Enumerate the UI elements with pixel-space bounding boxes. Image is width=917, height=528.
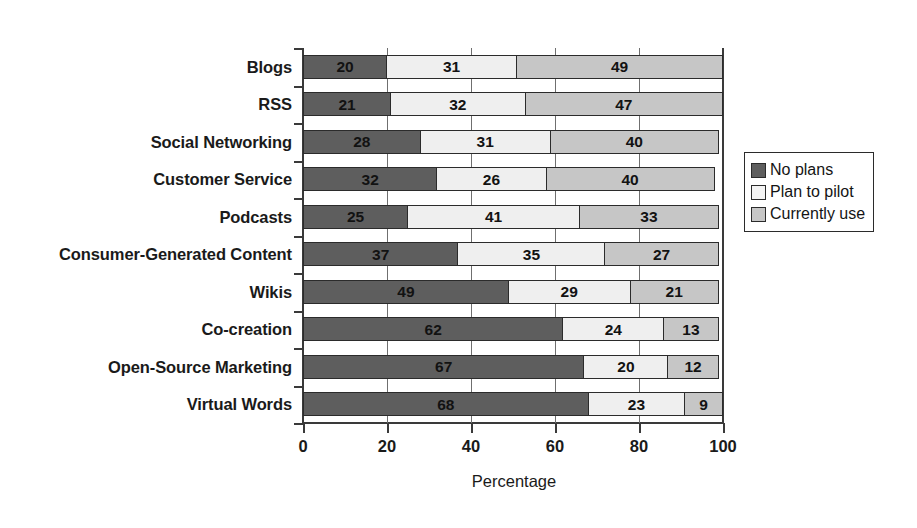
bar-row: 672012 [303, 355, 723, 379]
category-label: Wikis [0, 283, 292, 301]
category-label: Co-creation [0, 320, 292, 338]
x-axis-tick-label: 60 [546, 437, 564, 456]
bar-value-label: 21 [338, 97, 355, 113]
bar-value-label: 26 [483, 172, 500, 188]
bar-value-label: 67 [435, 359, 452, 375]
y-axis-tick [294, 86, 303, 88]
bar-segment: 67 [303, 355, 584, 379]
y-axis-tick [294, 161, 303, 163]
legend-item: Currently use [751, 203, 865, 225]
legend-label: Plan to pilot [770, 184, 854, 200]
bar-value-label: 62 [425, 322, 442, 338]
bar-value-label: 13 [682, 322, 699, 338]
bar-value-label: 31 [443, 59, 460, 75]
x-axis-tick [555, 423, 557, 433]
bar-value-label: 32 [449, 97, 466, 113]
bar-segment: 62 [303, 317, 563, 341]
y-axis-tick [294, 48, 303, 50]
y-axis-tick [294, 198, 303, 200]
x-axis-tick-label: 40 [462, 437, 480, 456]
category-label: Podcasts [0, 208, 292, 226]
x-axis-tick-label: 100 [709, 437, 737, 456]
x-axis-tick-label: 80 [630, 437, 648, 456]
y-axis-tick [294, 311, 303, 313]
bar-segment: 32 [391, 92, 525, 116]
bar-segment: 37 [303, 242, 458, 266]
bar-row: 283140 [303, 130, 723, 154]
bar-segment: 47 [526, 92, 723, 116]
bar-segment: 29 [509, 280, 631, 304]
legend-swatch [751, 207, 766, 222]
bar-segment: 28 [303, 130, 421, 154]
y-axis-tick [294, 123, 303, 125]
bar-value-label: 28 [353, 134, 370, 150]
bar-value-label: 20 [336, 59, 353, 75]
bar-value-label: 27 [653, 247, 670, 263]
bar-value-label: 33 [640, 209, 657, 225]
bar-segment: 33 [580, 205, 719, 229]
plot-area: 2031492132472831403226402541333735274929… [303, 48, 723, 423]
bar-segment: 9 [685, 392, 723, 416]
bar-segment: 12 [668, 355, 718, 379]
bar-value-label: 32 [362, 172, 379, 188]
bar-segment: 20 [584, 355, 668, 379]
legend-label: Currently use [770, 206, 865, 222]
bar-row: 322640 [303, 167, 723, 191]
x-axis-tick-label: 0 [298, 437, 307, 456]
bar-value-label: 29 [561, 284, 578, 300]
bar-segment: 31 [387, 55, 517, 79]
bar-value-label: 25 [347, 209, 364, 225]
bar-segment: 20 [303, 55, 387, 79]
bar-value-label: 47 [615, 97, 632, 113]
y-axis-tick [294, 423, 303, 425]
bar-segment: 24 [563, 317, 664, 341]
x-axis-tick [471, 423, 473, 433]
x-axis-tick [387, 423, 389, 433]
bar-value-label: 12 [684, 359, 701, 375]
x-axis-tick [303, 423, 305, 433]
bar-segment: 49 [517, 55, 723, 79]
legend-swatch [751, 163, 766, 178]
legend-item: No plans [751, 159, 865, 181]
stacked-bar-chart: BlogsRSSSocial NetworkingCustomer Servic… [0, 0, 917, 528]
bar-value-label: 40 [626, 134, 643, 150]
bar-row: 492921 [303, 280, 723, 304]
legend: No plansPlan to pilotCurrently use [744, 152, 874, 232]
bar-segment: 49 [303, 280, 509, 304]
bar-segment: 32 [303, 167, 437, 191]
bar-segment: 31 [421, 130, 551, 154]
bar-value-label: 37 [372, 247, 389, 263]
x-axis-tick [723, 423, 725, 433]
bar-value-label: 49 [397, 284, 414, 300]
legend-label: No plans [770, 162, 833, 178]
bar-row: 373527 [303, 242, 723, 266]
bar-value-label: 68 [437, 397, 454, 413]
bar-value-label: 9 [699, 397, 708, 413]
x-axis-title: Percentage [303, 472, 725, 491]
bar-segment: 21 [631, 280, 719, 304]
bar-segment: 41 [408, 205, 580, 229]
y-axis-tick [294, 348, 303, 350]
bar-row: 622413 [303, 317, 723, 341]
bar-segment: 40 [551, 130, 719, 154]
x-axis-tick-labels: 020406080100 [303, 437, 725, 459]
bar-segment: 25 [303, 205, 408, 229]
category-label: Blogs [0, 58, 292, 76]
y-axis-tick [294, 273, 303, 275]
category-label: Social Networking [0, 133, 292, 151]
category-label: Open-Source Marketing [0, 358, 292, 376]
y-axis-tick [294, 236, 303, 238]
bar-segment: 26 [437, 167, 546, 191]
x-axis-ticks [303, 423, 725, 435]
legend-item: Plan to pilot [751, 181, 865, 203]
x-axis-tick [639, 423, 641, 433]
bar-segment: 35 [458, 242, 605, 266]
category-label: RSS [0, 95, 292, 113]
bar-value-label: 41 [485, 209, 502, 225]
category-label: Customer Service [0, 170, 292, 188]
bar-segment: 68 [303, 392, 589, 416]
bar-segment: 27 [605, 242, 718, 266]
legend-swatch [751, 185, 766, 200]
bar-value-label: 20 [617, 359, 634, 375]
bar-row: 213247 [303, 92, 723, 116]
